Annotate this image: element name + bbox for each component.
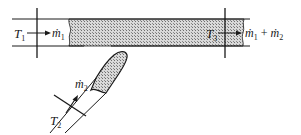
control-volume-main — [69, 19, 244, 46]
m2-label: ṁ2 — [75, 77, 88, 93]
m1-label: ṁ1 — [52, 26, 65, 42]
branch-wall-right — [65, 93, 106, 133]
control-volume-branch — [91, 52, 127, 93]
t1-label: T1 — [14, 26, 25, 43]
inlet2-section-line — [54, 95, 86, 116]
outlet-flow-label: ṁ1+ṁ2 — [245, 26, 283, 42]
inlet1-arrowhead — [45, 31, 51, 36]
mixing-diagram: T1 ṁ1 T3 ṁ1+ṁ2 ṁ2 T2 — [0, 0, 301, 135]
t2-label: T2 — [50, 113, 61, 130]
